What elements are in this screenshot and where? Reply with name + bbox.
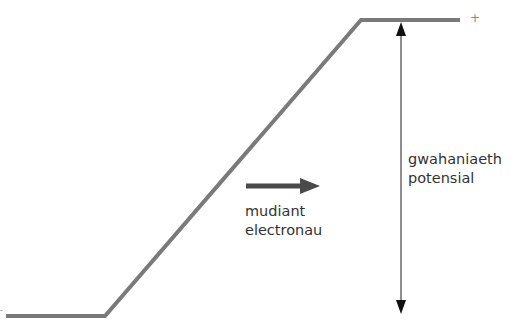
potential-difference-label-line2: potensial bbox=[408, 169, 502, 188]
potential-difference-label: gwahaniaeth potensial bbox=[408, 150, 502, 188]
electron-flow-label: mudiant electronau bbox=[245, 202, 322, 240]
negative-sign: - bbox=[0, 306, 3, 315]
potential-profile-line bbox=[6, 20, 460, 316]
potential-difference-label-line1: gwahaniaeth bbox=[408, 150, 502, 169]
electron-flow-label-line2: electronau bbox=[245, 221, 322, 240]
potential-difference-arrow-icon bbox=[396, 22, 406, 314]
electron-flow-label-line1: mudiant bbox=[245, 202, 322, 221]
electron-flow-arrow-icon bbox=[246, 178, 320, 194]
positive-sign: + bbox=[470, 11, 480, 25]
